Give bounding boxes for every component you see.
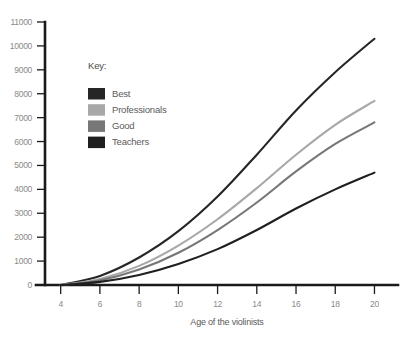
- legend-swatch-good: [88, 120, 105, 131]
- chart-canvas: 0100020003000400050006000700080009000100…: [0, 0, 408, 337]
- y-tick-label: 1000: [14, 256, 32, 266]
- y-tick-label: 10000: [10, 41, 33, 51]
- violin-practice-chart: 0100020003000400050006000700080009000100…: [0, 0, 408, 337]
- legend-label-professionals: Professionals: [112, 104, 167, 115]
- y-tick-label: 11000: [10, 17, 32, 27]
- y-tick-label: 4000: [14, 184, 32, 194]
- x-tick-label: 6: [98, 299, 103, 309]
- legend-entries: BestProfessionalsGoodTeachers: [88, 88, 167, 148]
- y-tick-label: 2000: [14, 232, 32, 242]
- legend-label-teachers: Teachers: [112, 136, 149, 147]
- series-line-good: [61, 122, 375, 285]
- chart-legend: Key: BestProfessionalsGoodTeachers: [88, 60, 167, 148]
- x-tick-label: 16: [292, 299, 301, 309]
- x-axis-tick-labels: 468101214161820: [58, 299, 379, 309]
- legend-title: Key:: [88, 60, 106, 71]
- x-tick-label: 18: [331, 299, 340, 309]
- legend-swatch-teachers: [88, 137, 105, 149]
- x-tick-label: 20: [370, 299, 379, 309]
- x-tick-label: 12: [213, 299, 222, 309]
- y-axis-tick-labels: 0100020003000400050006000700080009000100…: [10, 17, 33, 290]
- x-tick-label: 10: [174, 299, 183, 309]
- x-axis-title: Age of the violinists: [190, 317, 264, 327]
- x-tick-label: 14: [252, 299, 261, 309]
- y-tick-label: 6000: [14, 137, 32, 147]
- y-tick-label: 5000: [14, 160, 32, 170]
- x-axis-tick-marks: [61, 285, 375, 294]
- legend-label-good: Good: [112, 120, 134, 131]
- y-tick-label: 8000: [14, 89, 32, 99]
- y-tick-label: 3000: [14, 208, 32, 218]
- x-tick-label: 8: [137, 299, 142, 309]
- y-tick-label: 9000: [14, 65, 32, 75]
- x-tick-label: 4: [58, 299, 63, 309]
- legend-swatch-professionals: [88, 104, 105, 116]
- data-series-group: [61, 39, 375, 285]
- y-tick-label: 0: [28, 280, 33, 290]
- legend-label-best: Best: [112, 88, 131, 99]
- legend-swatch-best: [88, 88, 105, 100]
- y-tick-label: 7000: [14, 113, 32, 123]
